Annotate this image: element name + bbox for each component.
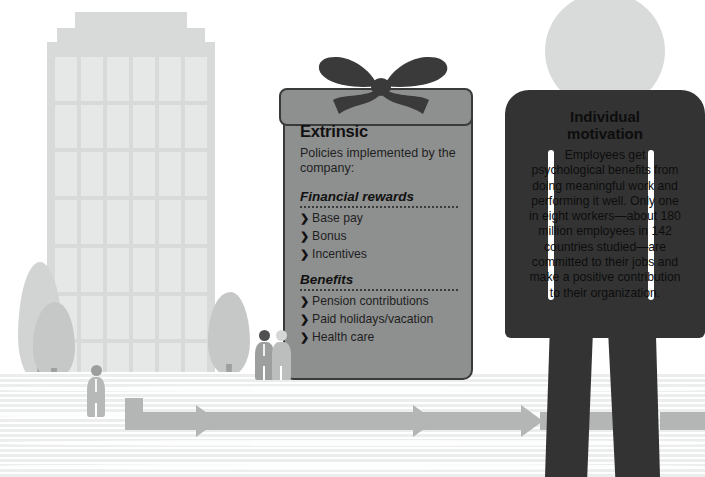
progress-arrow-head-1: [196, 405, 218, 437]
chevron-right-icon: ❯: [300, 227, 309, 245]
progress-arrow-head-3: [413, 405, 435, 437]
building-window: [133, 57, 155, 101]
extrinsic-subtitle: Policies implemented by the company:: [300, 146, 458, 176]
individual-motivation-title: Individual motivation: [527, 108, 683, 142]
list-item-label: Bonus: [312, 229, 347, 243]
building-window: [159, 248, 181, 292]
individual-motivation-title-line2: motivation: [567, 125, 643, 142]
person-head: [91, 365, 102, 376]
benefits-list: ❯ Pension contributions ❯ Paid holidays/…: [300, 292, 458, 346]
building-window: [185, 200, 207, 244]
chevron-right-icon: ❯: [300, 209, 309, 227]
building-window: [81, 248, 103, 292]
building-window: [159, 57, 181, 101]
person-head: [276, 330, 287, 341]
tree-crown: [208, 292, 250, 376]
section-heading-benefits: Benefits: [300, 272, 458, 291]
infographic-scene: Individual motivation Employees get psyc…: [0, 0, 705, 477]
building-window: [133, 152, 155, 196]
list-item-label: Base pay: [312, 211, 363, 225]
person-tie: [263, 344, 265, 356]
progress-arrow-shaft-2: [218, 412, 523, 430]
building-window: [185, 152, 207, 196]
building-window: [107, 152, 129, 196]
list-item: ❯ Paid holidays/vacation: [300, 310, 458, 328]
person-leg-split: [263, 366, 265, 380]
chevron-right-icon: ❯: [300, 245, 309, 263]
building-window: [107, 200, 129, 244]
list-item-label: Health care: [312, 330, 374, 344]
progress-arrow-shaft-4: [660, 412, 705, 430]
building-window: [159, 152, 181, 196]
building-window: [159, 105, 181, 149]
building-window: [159, 296, 181, 340]
list-item-label: Paid holidays/vacation: [312, 312, 433, 326]
building-window: [185, 248, 207, 292]
individual-motivation-title-line1: Individual: [570, 108, 640, 125]
building-window: [107, 105, 129, 149]
chevron-right-icon: ❯: [300, 310, 309, 328]
building-window: [185, 296, 207, 340]
section-heading-financial-rewards: Financial rewards: [300, 189, 458, 208]
list-item: ❯ Incentives: [300, 245, 458, 263]
building-window: [55, 105, 77, 149]
building-window: [133, 105, 155, 149]
extrinsic-panel: Extrinsic Policies implemented by the co…: [300, 122, 458, 355]
person-pair-light: [271, 330, 293, 382]
person-head: [259, 330, 270, 341]
list-item: ❯ Base pay: [300, 209, 458, 227]
building-window: [133, 200, 155, 244]
extrinsic-title: Extrinsic: [300, 122, 458, 141]
building-window: [185, 105, 207, 149]
building-window: [81, 200, 103, 244]
building-window: [81, 105, 103, 149]
building-window: [107, 248, 129, 292]
building-window: [107, 296, 129, 340]
individual-motivation-panel: Individual motivation Employees get psyc…: [527, 108, 683, 301]
building-cap-top: [75, 12, 187, 28]
list-item: ❯ Pension contributions: [300, 292, 458, 310]
list-item-label: Incentives: [312, 247, 367, 261]
building-window: [133, 248, 155, 292]
building-window: [55, 57, 77, 101]
building-window: [55, 200, 77, 244]
building-window: [81, 296, 103, 340]
list-item-label: Pension contributions: [312, 294, 429, 308]
building-window: [185, 57, 207, 101]
figure-leg-left: [545, 330, 593, 477]
building-window: [133, 296, 155, 340]
person-worker-alone: [85, 365, 107, 420]
person-leg-split: [280, 366, 282, 380]
building-window: [159, 200, 181, 244]
ribbon-bow-icon: [315, 44, 455, 116]
list-item: ❯ Health care: [300, 328, 458, 346]
chevron-right-icon: ❯: [300, 292, 309, 310]
individual-motivation-body: Employees get psychological benefits fro…: [527, 148, 683, 301]
list-item: ❯ Bonus: [300, 227, 458, 245]
building-window: [81, 57, 103, 101]
building-window: [81, 152, 103, 196]
building-window: [55, 152, 77, 196]
building-window-grid: [55, 57, 207, 387]
person-tie: [95, 379, 97, 392]
figure-leg-right: [608, 330, 660, 477]
financial-rewards-list: ❯ Base pay ❯ Bonus ❯ Incentives: [300, 209, 458, 263]
building-cap-mid: [57, 28, 205, 42]
building-window: [107, 57, 129, 101]
progress-arrow-elbow: [125, 412, 195, 430]
chevron-right-icon: ❯: [300, 328, 309, 346]
person-leg-split: [95, 403, 97, 418]
